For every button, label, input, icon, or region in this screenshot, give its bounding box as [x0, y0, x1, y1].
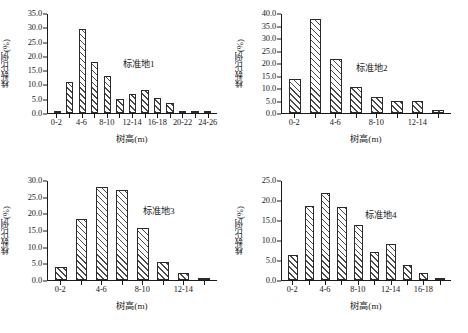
bar-slot	[89, 14, 102, 113]
x-axis-ticks-4: 0-24-68-1012-1416-18	[281, 281, 451, 297]
bar[interactable]	[116, 190, 128, 280]
bar[interactable]	[191, 111, 198, 113]
bar[interactable]	[96, 187, 108, 280]
chart-panel-plot-2: 株数比例(%) 0.05.010.015.020.025.030.035.040…	[234, 0, 468, 166]
bar-slot	[301, 181, 317, 280]
bar[interactable]	[104, 76, 111, 113]
x-tick-mark	[438, 114, 439, 118]
bar[interactable]	[76, 219, 88, 280]
bar[interactable]	[337, 207, 346, 280]
y-tick-label: 15.0	[262, 72, 276, 80]
y-axis-ticks-2: 0.05.010.015.020.025.030.035.040.0	[234, 14, 281, 114]
x-tick-mark	[374, 281, 375, 285]
bar[interactable]	[289, 79, 301, 114]
bar[interactable]	[129, 94, 136, 113]
bar-slot	[189, 14, 202, 113]
bar[interactable]	[412, 101, 424, 113]
bar-series-4	[282, 181, 451, 280]
bar[interactable]	[432, 110, 444, 113]
x-tick-mark	[356, 114, 357, 118]
bar[interactable]	[305, 206, 314, 280]
y-tick-label: 0.0	[32, 110, 42, 118]
x-tick-label: 0-2	[51, 119, 62, 127]
bar-slot	[326, 14, 346, 113]
bar[interactable]	[157, 262, 169, 280]
y-tick-label: 10.0	[28, 81, 42, 89]
chart-panel-plot-1: 株数比例(%) 0.05.010.015.020.025.030.035.0 0…	[0, 0, 234, 166]
bar[interactable]	[166, 103, 173, 113]
bar-slot	[285, 14, 305, 113]
bar[interactable]	[141, 90, 148, 113]
bar[interactable]	[178, 273, 190, 280]
y-tick-label: 30.0	[28, 177, 42, 185]
y-tick-label: 5.0	[266, 257, 276, 265]
x-axis-ticks-2: 0-24-68-1012-14	[281, 114, 451, 130]
y-axis-ticks-4: 0.05.010.015.020.025.0	[234, 181, 281, 281]
bar[interactable]	[204, 111, 211, 113]
bar[interactable]	[370, 252, 379, 280]
bar[interactable]	[198, 278, 210, 280]
x-tick-mark	[195, 114, 196, 118]
y-tick-label: 25.0	[262, 47, 276, 55]
bar-series-3	[48, 181, 217, 280]
x-tick-label: 12-14	[122, 119, 141, 127]
bar-slot	[92, 181, 112, 280]
x-axis-ticks-3: 0-24-68-1012-14	[47, 281, 217, 297]
bar[interactable]	[371, 97, 383, 113]
bar[interactable]	[354, 225, 363, 280]
bar[interactable]	[350, 87, 362, 113]
bar[interactable]	[403, 265, 412, 280]
x-tick-mark	[69, 114, 70, 118]
y-tick-label: 15.0	[28, 67, 42, 75]
bar-slot	[176, 14, 189, 113]
x-tick-mark	[122, 281, 123, 285]
y-tick-label: 25.0	[28, 193, 42, 201]
bar[interactable]	[116, 99, 123, 113]
bar[interactable]	[55, 267, 67, 280]
bar[interactable]	[310, 19, 322, 113]
bar[interactable]	[79, 29, 86, 113]
x-tick-label: 0-2	[55, 286, 66, 294]
bar-slot	[51, 14, 64, 113]
x-tick-label: 4-6	[320, 286, 331, 294]
y-tick-label: 25.0	[28, 38, 42, 46]
bar[interactable]	[330, 59, 342, 113]
bar-slot	[101, 14, 114, 113]
bar[interactable]	[91, 62, 98, 113]
x-tick-mark	[309, 281, 310, 285]
x-tick-mark	[315, 114, 316, 118]
bar[interactable]	[66, 82, 73, 113]
y-tick-label: 5.0	[32, 260, 42, 268]
bar[interactable]	[288, 255, 297, 280]
plot-annotation-2: 标准地2	[356, 60, 388, 74]
x-tick-label: 8-10	[369, 119, 384, 127]
x-tick-label: 8-10	[350, 286, 365, 294]
bar[interactable]	[137, 228, 149, 280]
x-tick-mark	[170, 114, 171, 118]
x-tick-mark	[119, 114, 120, 118]
x-tick-label: 12-14	[381, 286, 400, 294]
bar[interactable]	[54, 111, 61, 113]
bar[interactable]	[419, 273, 428, 280]
x-tick-label: 12-14	[174, 286, 193, 294]
bar[interactable]	[154, 98, 161, 113]
plot-annotation-1: 标准地1	[123, 56, 155, 70]
bar[interactable]	[321, 193, 330, 280]
bar[interactable]	[435, 278, 444, 280]
y-tick-label: 5.0	[32, 96, 42, 104]
x-axis-label-2: 树高(m)	[281, 131, 451, 145]
chart-panel-plot-4: 株数比例(%) 0.05.010.015.020.025.0 0-24-68-1…	[234, 167, 468, 333]
x-tick-label: 8-10	[99, 119, 114, 127]
plot-area-3	[47, 181, 217, 281]
bar-slot	[415, 181, 431, 280]
y-tick-label: 20.0	[28, 53, 42, 61]
y-tick-label: 10.0	[262, 237, 276, 245]
x-tick-mark	[163, 281, 164, 285]
bar-slot	[133, 181, 153, 280]
bar[interactable]	[179, 111, 186, 113]
bar[interactable]	[386, 244, 395, 280]
bar-slot	[334, 181, 350, 280]
x-axis-label-4: 树高(m)	[281, 298, 451, 312]
y-tick-label: 35.0	[28, 10, 42, 18]
bar[interactable]	[391, 101, 403, 113]
